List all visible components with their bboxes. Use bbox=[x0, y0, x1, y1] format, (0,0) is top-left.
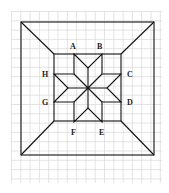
figure-lines bbox=[21, 22, 154, 155]
label-A: A bbox=[70, 42, 76, 51]
label-D: D bbox=[127, 98, 133, 107]
label-H: H bbox=[42, 70, 49, 79]
label-B: B bbox=[97, 42, 103, 51]
quilt-diagram: A B C D E F G H bbox=[0, 0, 169, 193]
label-F: F bbox=[71, 128, 76, 137]
label-C: C bbox=[127, 70, 133, 79]
label-G: G bbox=[42, 98, 48, 107]
corner-diagonal bbox=[121, 22, 154, 54]
label-E: E bbox=[99, 128, 104, 137]
corner-diagonal bbox=[121, 121, 154, 155]
center-point bbox=[87, 87, 90, 90]
